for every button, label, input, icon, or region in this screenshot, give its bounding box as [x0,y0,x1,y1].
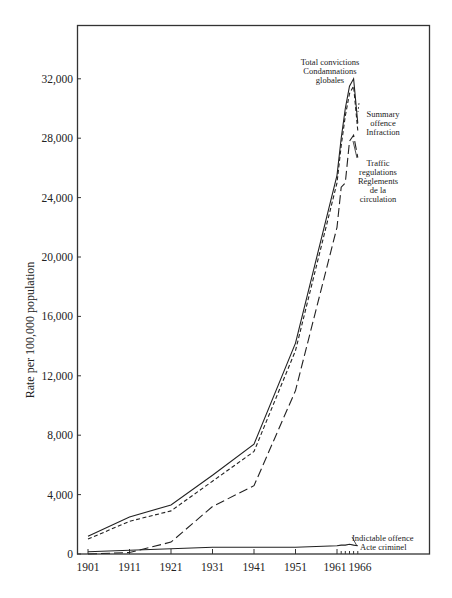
x-tick-label: 1931 [201,561,224,573]
y-tick-label: 4,000 [47,489,73,502]
annotation-leaders [352,103,359,546]
annotation-summary: Summary offence Infraction [366,109,400,137]
x-tick-label: 1951 [284,561,307,573]
y-tick-label: 28,000 [41,132,73,145]
line-total-convictions [88,79,358,536]
y-tick-label: 8,000 [47,429,73,442]
annotation-text: Acte criminel [360,542,407,552]
x-axis [88,549,358,554]
line-indictable-offence [88,544,358,552]
annotation-text: Infraction [366,127,400,137]
y-tick-label: 20,000 [41,251,73,264]
annotation-traffic: Traffic regulations Règlements de la cir… [358,158,398,204]
y-tick-label: 32,000 [41,73,73,86]
annotation-text: globales [316,75,344,85]
annotation-total: Total convictions Condamnations globales [301,57,360,85]
series-layer [88,79,358,554]
annotation-text: circulation [360,194,397,204]
x-tick-label: 1966 [349,561,372,573]
chart: 0 4,000 8,000 12,000 16,000 20,000 24,00… [0,0,452,598]
y-tick-label: 0 [67,548,73,560]
annotation-indictable: Indictable offence Acte criminel [352,533,414,552]
y-tick-labels: 0 4,000 8,000 12,000 16,000 20,000 24,00… [41,73,73,560]
y-tick-label: 12,000 [41,370,73,383]
x-tick-label: 1961 [324,561,347,573]
plot-frame [78,26,430,555]
x-tick-label: 1901 [77,561,100,573]
y-tick-label: 16,000 [41,310,73,323]
x-tick-label: 1941 [243,561,266,573]
line-summary-offence [88,86,358,539]
y-tick-label: 24,000 [41,192,73,205]
y-axis-title: Rate per 100,000 population [23,262,37,399]
line-traffic-regulations [88,135,358,554]
x-tick-labels: 1901 1911 1921 1931 1941 1951 1961 1966 [77,561,372,573]
x-tick-label: 1911 [118,561,141,573]
x-tick-label: 1921 [160,561,183,573]
